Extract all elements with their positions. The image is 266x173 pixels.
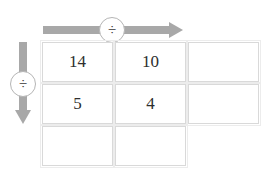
grid-row: 54 (42, 84, 261, 126)
column-arrow-head-icon (169, 22, 183, 38)
grid-cell[interactable]: 4 (115, 84, 186, 124)
number-grid: 141054 (42, 42, 261, 168)
grid-row (42, 126, 261, 168)
grid-row: 1410 (42, 42, 261, 84)
grid-cell[interactable]: 5 (42, 84, 113, 124)
grid-cell[interactable] (115, 126, 186, 166)
column-divide-operator-badge: ÷ (99, 17, 125, 43)
grid-cell[interactable]: 14 (42, 42, 113, 82)
diagram-canvas: ÷ ÷ 141054 (0, 0, 266, 173)
grid-cell[interactable]: 10 (115, 42, 186, 82)
row-arrow-head-icon (15, 110, 31, 124)
grid-cell-absent (188, 126, 259, 166)
grid-cell[interactable] (188, 84, 259, 124)
grid-cell[interactable] (42, 126, 113, 166)
row-divide-operator-badge: ÷ (10, 71, 36, 97)
grid-cell[interactable] (188, 42, 259, 82)
